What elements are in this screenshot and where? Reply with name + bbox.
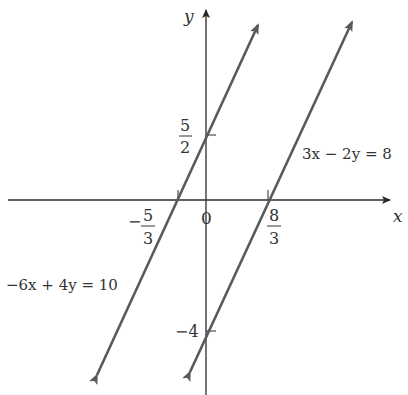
x-intercept-right-num: 8 bbox=[269, 206, 279, 225]
equation-right: 3x − 2y = 8 bbox=[302, 145, 392, 163]
x-axis-label: x bbox=[393, 206, 403, 226]
line-right bbox=[190, 22, 352, 372]
graph-figure: y x 0 5 2 − 5 3 8 3 −4 3x − 2y = 8 −6x +… bbox=[0, 0, 408, 395]
y-axis-label: y bbox=[183, 6, 194, 26]
x-intercept-left-num: 5 bbox=[143, 206, 153, 225]
x-intercept-left-sign: − bbox=[128, 212, 141, 231]
y-intercept-bottom: −4 bbox=[175, 322, 199, 341]
origin-label: 0 bbox=[201, 208, 212, 228]
x-intercept-right-den: 3 bbox=[269, 229, 279, 248]
graph-canvas: y x 0 5 2 − 5 3 8 3 −4 3x − 2y = 8 −6x +… bbox=[0, 0, 408, 395]
x-intercept-left-den: 3 bbox=[143, 229, 153, 248]
y-intercept-top-den: 2 bbox=[180, 138, 190, 157]
equation-left: −6x + 4y = 10 bbox=[6, 276, 118, 294]
y-intercept-top-num: 5 bbox=[180, 116, 190, 135]
